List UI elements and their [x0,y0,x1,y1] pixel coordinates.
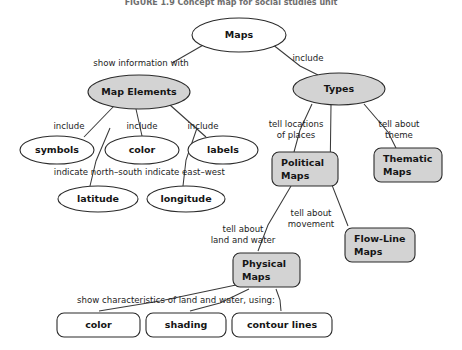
node-thematic-maps[interactable]: ThematicMaps [374,148,442,182]
node-layer: MapsMap ElementsTypessymbolscolorlabelsl… [20,18,442,337]
link-label: tell aboutmovement [288,208,335,229]
link-label: include [126,121,157,131]
node-symbols[interactable]: symbols [20,136,94,164]
node-color-elem[interactable]: color [105,136,179,164]
node-political-maps[interactable]: PoliticalMaps [272,152,338,186]
link-label: indicate north–south [54,167,142,177]
node-types[interactable]: Types [293,73,385,105]
node-longitude[interactable]: longitude [147,186,225,212]
link-maps-to-types: include [272,44,324,75]
link-label: include [53,121,84,131]
link-line [276,289,281,311]
link-types-to-thematic: tell abouttheme [364,104,420,148]
node-label: Maps [225,29,254,40]
link-label: show information with [93,58,189,68]
node-label: Types [324,83,355,94]
link-label: tell aboutland and water [211,224,276,245]
link-label: indicate east–west [145,167,226,177]
link-label: show characteristics of land and water, … [77,295,275,305]
link-physical-to-color: show characteristics of land and water, … [77,285,275,311]
node-physical-maps[interactable]: PhysicalMaps [233,253,300,287]
node-maps[interactable]: Maps [192,18,286,52]
link-label: tell abouttheme [379,119,421,140]
node-labels[interactable]: labels [188,136,258,164]
link-map-elements-to-labels: include [170,105,219,137]
link-label: tell locationsof places [269,119,324,140]
node-label: contour lines [247,319,317,330]
link-line [84,106,114,137]
node-label: Map Elements [101,86,177,97]
link-line [90,128,110,186]
node-map-elements[interactable]: Map Elements [88,75,190,109]
node-label: shading [165,319,207,330]
node-label: symbols [35,144,79,155]
node-color-bottom[interactable]: color [57,313,140,337]
figure-title: FIGURE 1.9 Concept map for social studie… [125,0,338,7]
link-map-elements-to-symbols: include [53,106,114,137]
concept-map-diagram: show information withincludeincludeinclu… [0,0,462,350]
link-map-elements-to-color: include [126,109,157,136]
node-label: latitude [77,193,119,204]
node-label: color [85,319,112,330]
node-label: color [129,144,156,155]
node-shading[interactable]: shading [146,313,226,337]
node-flow-line-maps[interactable]: Flow-LineMaps [345,228,415,262]
node-label: labels [207,144,239,155]
link-label: include [292,53,323,63]
node-label: longitude [160,193,211,204]
link-physical-to-contour [276,289,281,311]
node-latitude[interactable]: latitude [58,186,138,212]
node-contour-lines[interactable]: contour lines [232,313,332,337]
link-types-to-political: tell locationsof places [269,104,324,152]
link-maps-to-map-elements: show information with [93,44,205,68]
link-label: include [187,121,218,131]
